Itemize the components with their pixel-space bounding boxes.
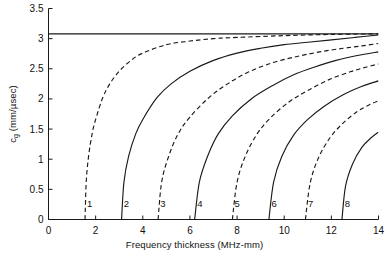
curve-label-8: 8 bbox=[345, 198, 350, 209]
curve-label-7: 7 bbox=[308, 198, 313, 209]
y-axis-title: cg (mm/µsec) bbox=[7, 49, 19, 179]
y-axis-title-subscript: g bbox=[12, 134, 19, 138]
y-axis-tick-label: 0.5 bbox=[30, 184, 44, 195]
x-axis-tick-label: 4 bbox=[140, 225, 146, 236]
curve-mode-7 bbox=[305, 101, 378, 220]
curve-label-4: 4 bbox=[197, 198, 202, 209]
y-axis-tick-label: 3 bbox=[38, 33, 44, 44]
x-axis-title: Frequency thickness (MHz-mm) bbox=[0, 239, 389, 250]
y-axis-tick-label: 3.5 bbox=[30, 3, 44, 14]
dispersion-chart-figure: 0246810121400.511.522.533.512345678 cg (… bbox=[0, 0, 389, 258]
y-axis-tick-label: 1 bbox=[38, 154, 44, 165]
y-axis-tick-label: 2.5 bbox=[30, 63, 44, 74]
y-axis-title-symbol: c bbox=[7, 138, 18, 143]
x-axis-tick-label: 14 bbox=[373, 225, 385, 236]
curve-label-6: 6 bbox=[271, 198, 276, 209]
curve-label-3: 3 bbox=[160, 198, 165, 209]
curve-mode-1 bbox=[85, 34, 378, 220]
y-axis-tick-label: 1.5 bbox=[30, 124, 44, 135]
curve-label-5: 5 bbox=[234, 198, 239, 209]
x-axis-tick-label: 12 bbox=[326, 225, 338, 236]
y-axis-tick-label: 0 bbox=[38, 214, 44, 225]
curve-mode-5 bbox=[232, 64, 378, 220]
curve-label-1: 1 bbox=[87, 198, 92, 209]
curve-mode-2 bbox=[122, 35, 379, 219]
curve-mode-6 bbox=[269, 81, 379, 220]
curve-label-2: 2 bbox=[124, 198, 129, 209]
x-axis-tick-label: 2 bbox=[93, 225, 99, 236]
curve-mode-4 bbox=[195, 52, 379, 220]
x-axis-tick-label: 0 bbox=[46, 225, 52, 236]
y-axis-title-units: (mm/µsec) bbox=[7, 85, 18, 134]
y-axis-tick-label: 2 bbox=[38, 93, 44, 104]
group-velocity-dispersion-plot: 0246810121400.511.522.533.512345678 bbox=[0, 0, 389, 258]
x-axis-tick-label: 6 bbox=[187, 225, 193, 236]
x-axis-tick-label: 10 bbox=[279, 225, 291, 236]
x-axis-tick-label: 8 bbox=[234, 225, 240, 236]
